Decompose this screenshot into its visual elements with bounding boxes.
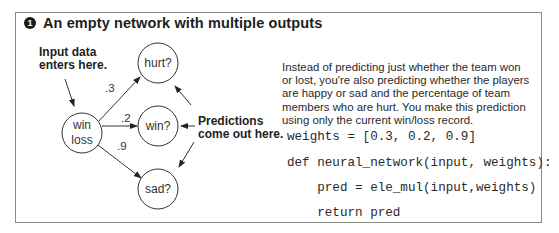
prediction-arrow-hurt: [175, 86, 191, 105]
weight-label-win: .2: [121, 112, 131, 124]
output-node-sad-label: sad?: [145, 182, 171, 196]
code-line-4: return pred: [287, 206, 400, 220]
code-line-3: pred = ele_mul(input,weights): [287, 181, 536, 195]
code-line-2: def neural_network(input, weights):: [287, 156, 552, 170]
output-callout: Predictions come out here.: [198, 115, 283, 141]
output-callout-line2: come out here.: [198, 128, 283, 141]
input-arrow: [65, 79, 74, 106]
weight-label-hurt: .3: [105, 82, 115, 94]
input-callout-line2: enters here.: [39, 59, 107, 72]
weight-label-sad: .9: [117, 140, 127, 152]
output-node-win-label: win?: [145, 119, 171, 133]
input-node-label-line1: win: [72, 118, 91, 132]
figure-description: Instead of predicting just whether the t…: [282, 61, 532, 127]
input-callout: Input data enters here.: [39, 46, 107, 72]
prediction-arrow-sad: [179, 142, 194, 167]
input-node-label-line2: loss: [71, 133, 92, 147]
code-line-1: weights = [0.3, 0.2, 0.9]: [287, 130, 476, 144]
output-node-hurt-label: hurt?: [144, 56, 172, 70]
